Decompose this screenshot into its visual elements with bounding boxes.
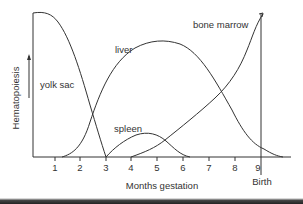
tick-label: 2 <box>77 162 82 173</box>
tick-label: 4 <box>128 162 133 173</box>
x-axis-label: Months gestation <box>126 180 198 191</box>
y-arrow-head-icon <box>27 54 31 60</box>
bone-marrow-curve <box>131 14 263 157</box>
tick-label: 1 <box>52 162 57 173</box>
tick-label: 6 <box>180 162 185 173</box>
bone-marrow-label: bone marrow <box>193 19 249 30</box>
tick-label: 3 <box>103 162 108 173</box>
spleen-curve <box>106 133 190 157</box>
birth-label: Birth <box>252 176 272 187</box>
x-tick-labels: 1 2 3 4 5 6 7 8 9 <box>52 162 260 173</box>
tick-label: 9 <box>255 162 260 173</box>
liver-curve <box>62 41 283 157</box>
tick-label: 8 <box>232 162 237 173</box>
tick-label: 7 <box>206 162 211 173</box>
yolk-sac-label: yolk sac <box>40 79 75 90</box>
spleen-label: spleen <box>114 123 142 134</box>
hematopoiesis-chart: 1 2 3 4 5 6 7 8 9 Birth Hematopoiesis yo… <box>0 0 303 204</box>
x-ticks <box>55 157 235 161</box>
tick-label: 5 <box>154 162 159 173</box>
bottom-divider <box>0 198 303 204</box>
liver-label: liver <box>115 44 132 55</box>
y-axis-label: Hematopoiesis <box>10 66 21 129</box>
